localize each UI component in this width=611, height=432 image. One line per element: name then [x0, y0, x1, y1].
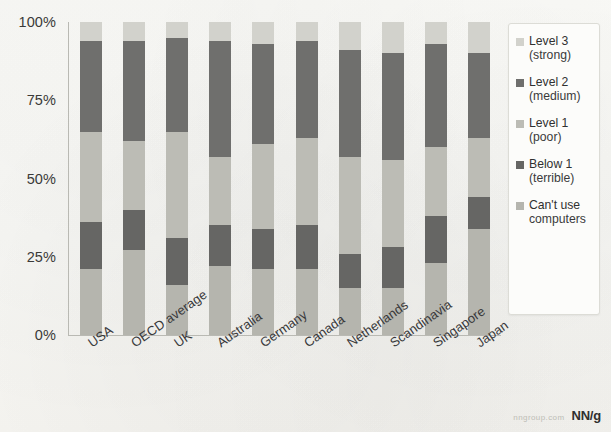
bar-segment — [468, 138, 490, 197]
bar-segment — [425, 216, 447, 263]
bar-segment — [382, 53, 404, 159]
bar-segment — [252, 229, 274, 270]
y-tick-label: 75% — [27, 92, 56, 108]
watermark-url: nngroup.com — [513, 413, 564, 422]
bar-segment — [296, 22, 318, 41]
legend-swatch-icon — [516, 202, 524, 210]
legend-label-main: Level 2 — [529, 75, 568, 89]
bar-segment — [339, 254, 361, 288]
legend-label-main: Below 1 — [529, 157, 572, 171]
y-axis-line — [68, 22, 69, 335]
bar-segment — [209, 41, 231, 157]
bar-segment — [209, 157, 231, 226]
legend-item[interactable]: Below 1(terrible) — [516, 157, 593, 185]
bar-segment — [166, 22, 188, 38]
bar-segment — [339, 50, 361, 156]
bar-japan — [468, 22, 490, 335]
bar-segment — [425, 147, 447, 216]
legend-label-main: Can't use — [529, 198, 580, 212]
bar-segment — [80, 269, 102, 335]
bar-segment — [468, 53, 490, 138]
y-tick-label: 50% — [27, 171, 56, 187]
bar-scandinavia — [382, 22, 404, 335]
bar-germany — [252, 22, 274, 335]
bar-segment — [296, 138, 318, 226]
bar-segment — [123, 250, 145, 335]
bar-segment — [166, 38, 188, 132]
legend-label-main: Level 3 — [529, 34, 568, 48]
bar-segment — [425, 44, 447, 147]
bar-segment — [296, 41, 318, 138]
legend-item[interactable]: Can't usecomputers — [516, 198, 593, 226]
legend-label-main: Level 1 — [529, 116, 568, 130]
x-axis-labels: USAOECD averageUKAustraliaGermanyCanadaN… — [69, 338, 509, 408]
y-tick-label: 25% — [27, 249, 56, 265]
legend-item[interactable]: Level 1(poor) — [516, 116, 593, 144]
bar-segment — [80, 22, 102, 41]
y-tick-label: 0% — [35, 327, 56, 343]
legend-label: Level 3(strong) — [529, 34, 571, 62]
y-tick-label: 100% — [19, 14, 57, 30]
legend-item[interactable]: Level 2(medium) — [516, 75, 593, 103]
y-axis-labels: 100%75%50%25%0% — [0, 22, 64, 335]
legend-label: Below 1(terrible) — [529, 157, 574, 185]
bar-australia — [209, 22, 231, 335]
watermark-logo: NN/g — [571, 408, 601, 423]
legend-swatch-icon — [516, 38, 524, 46]
bar-segment — [468, 197, 490, 228]
bar-segment — [166, 238, 188, 285]
legend-swatch-icon — [516, 161, 524, 169]
bar-segment — [339, 157, 361, 254]
legend-label-sub: (poor) — [529, 130, 568, 144]
legend-swatch-icon — [516, 120, 524, 128]
legend-label: Level 1(poor) — [529, 116, 568, 144]
legend-label: Can't usecomputers — [529, 198, 586, 226]
bar-segment — [425, 22, 447, 44]
bar-segment — [80, 222, 102, 269]
bar-segment — [296, 225, 318, 269]
bar-segment — [209, 22, 231, 41]
legend-label-sub: computers — [529, 212, 586, 226]
bar-segment — [80, 41, 102, 132]
legend-swatch-icon — [516, 79, 524, 87]
bar-segment — [80, 132, 102, 223]
bar-segment — [123, 210, 145, 251]
bar-segment — [166, 132, 188, 238]
legend-label-sub: (strong) — [529, 48, 571, 62]
bar-segment — [382, 160, 404, 248]
bar-segment — [209, 266, 231, 335]
bar-segment — [382, 247, 404, 288]
legend-label-sub: (terrible) — [529, 171, 574, 185]
bar-segment — [123, 41, 145, 141]
bar-segment — [468, 22, 490, 53]
bar-segment — [123, 22, 145, 41]
bar-canada — [296, 22, 318, 335]
bar-oecd-average — [123, 22, 145, 335]
legend-label: Level 2(medium) — [529, 75, 580, 103]
watermark: nngroup.com NN/g — [513, 408, 601, 423]
legend-item[interactable]: Level 3(strong) — [516, 34, 593, 62]
plot-area — [69, 22, 501, 335]
bar-segment — [252, 22, 274, 44]
bar-netherlands — [339, 22, 361, 335]
bar-segment — [252, 44, 274, 144]
bar-singapore — [425, 22, 447, 335]
bar-segment — [382, 22, 404, 53]
bar-segment — [339, 22, 361, 50]
legend-label-sub: (medium) — [529, 89, 580, 103]
chart-figure: 100%75%50%25%0% USAOECD averageUKAustral… — [0, 0, 611, 432]
bar-segment — [209, 225, 231, 266]
bar-uk — [166, 22, 188, 335]
bar-segment — [252, 144, 274, 229]
chart-legend: Level 3(strong)Level 2(medium)Level 1(po… — [508, 23, 600, 315]
bar-segment — [123, 141, 145, 210]
bar-usa — [80, 22, 102, 335]
